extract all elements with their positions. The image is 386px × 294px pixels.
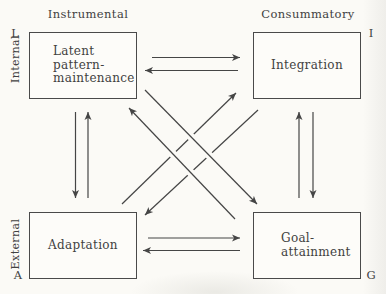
- arrows-layer: [0, 0, 386, 294]
- integration-to-adaptation-arrow: [145, 110, 258, 215]
- adaptation-to-integration-arrow: [122, 93, 236, 204]
- agil-diagram: Instrumental Consummatory L I A G Intern…: [0, 0, 386, 294]
